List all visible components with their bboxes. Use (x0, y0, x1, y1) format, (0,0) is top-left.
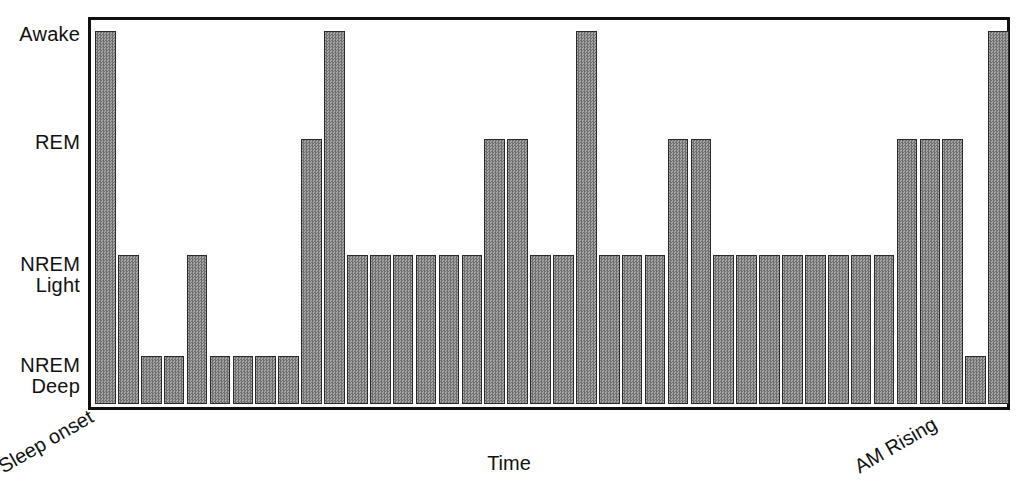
bar-40 (988, 31, 1009, 404)
bar-9 (278, 356, 299, 404)
bar-34 (851, 255, 872, 404)
bar-6 (210, 356, 231, 404)
y-tick-nrem-deep-line1: NREM (20, 355, 80, 376)
bar-39 (965, 356, 986, 404)
y-tick-nrem-light: NREM Light (20, 254, 80, 296)
bar-12 (347, 255, 368, 404)
bar-14 (393, 255, 414, 404)
bar-26 (668, 139, 689, 404)
bar-17 (462, 255, 483, 404)
y-tick-nrem-light-line2: Light (20, 275, 80, 296)
bar-31 (782, 255, 803, 404)
y-tick-rem: REM (35, 131, 80, 153)
bar-5 (187, 255, 208, 404)
bar-4 (164, 356, 185, 404)
bar-24 (622, 255, 643, 404)
bar-20 (530, 255, 551, 404)
bar-25 (645, 255, 666, 404)
bar-37 (920, 139, 941, 404)
bar-1 (95, 31, 116, 404)
bar-3 (141, 356, 162, 404)
x-axis-title: Time (0, 452, 1018, 475)
bar-10 (301, 139, 322, 404)
bar-7 (233, 356, 254, 404)
bar-series (91, 20, 1007, 407)
y-tick-nrem-deep: NREM Deep (20, 355, 80, 397)
bar-2 (118, 255, 139, 404)
bar-38 (942, 139, 963, 404)
bar-32 (805, 255, 826, 404)
bar-35 (874, 255, 895, 404)
y-tick-awake: Awake (19, 23, 80, 45)
bar-19 (507, 139, 528, 404)
bar-23 (599, 255, 620, 404)
bar-8 (255, 356, 276, 404)
sleep-hypnogram-figure: Awake REM NREM Light NREM Deep Sleep ons… (0, 0, 1018, 499)
bar-16 (439, 255, 460, 404)
y-tick-nrem-light-line1: NREM (20, 254, 80, 275)
bar-13 (370, 255, 391, 404)
bar-15 (416, 255, 437, 404)
bar-21 (553, 255, 574, 404)
bar-22 (576, 31, 597, 404)
bar-33 (828, 255, 849, 404)
y-tick-nrem-deep-line2: Deep (20, 376, 80, 397)
bar-29 (736, 255, 757, 404)
y-axis-labels: Awake REM NREM Light NREM Deep (0, 0, 88, 415)
bar-11 (324, 31, 345, 404)
bar-30 (759, 255, 780, 404)
bar-27 (691, 139, 712, 404)
plot-area (88, 17, 1010, 410)
bar-28 (713, 255, 734, 404)
bar-18 (484, 139, 505, 404)
bar-36 (897, 139, 918, 404)
